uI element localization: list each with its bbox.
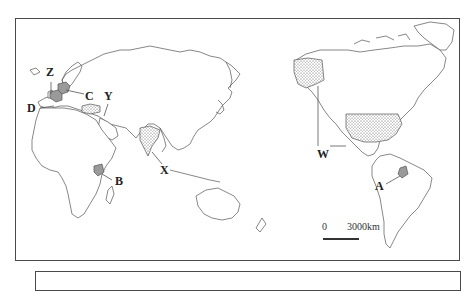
australia	[196, 188, 240, 220]
label-a: A	[375, 180, 384, 192]
new-zealand	[256, 218, 266, 232]
region-x-india	[140, 126, 160, 156]
label-x: X	[160, 164, 169, 176]
region-y-turkey	[82, 104, 100, 114]
region-w-usa	[346, 114, 402, 142]
scale-distance-label: 3000km	[347, 222, 380, 232]
leader-b	[102, 174, 112, 180]
indonesia	[170, 170, 220, 182]
label-b: B	[115, 175, 123, 187]
leader-y	[104, 104, 108, 116]
label-z: Z	[46, 66, 54, 78]
label-d: D	[27, 102, 36, 114]
japan	[216, 100, 224, 114]
label-w: W	[317, 148, 329, 160]
iceland	[30, 68, 40, 75]
madagascar	[106, 186, 114, 204]
leader-c	[66, 90, 84, 94]
scale-bar	[323, 238, 359, 240]
label-c: C	[85, 90, 94, 102]
scale-zero-label: 0	[322, 222, 327, 232]
region-d-france	[50, 90, 62, 102]
arctic-islands	[354, 34, 410, 44]
label-y: Y	[104, 90, 113, 102]
